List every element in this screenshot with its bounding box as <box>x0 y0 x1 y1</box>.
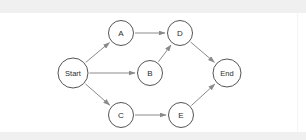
graph-node-start[interactable]: Start <box>58 58 88 88</box>
graph-node-b[interactable]: B <box>138 61 163 86</box>
graph-node-d[interactable]: D <box>168 21 193 46</box>
screenshot-root: StartABCDEEnd <box>0 0 306 140</box>
flowchart-graph: StartABCDEEnd <box>0 0 306 140</box>
node-label-b: B <box>147 69 152 78</box>
node-label-e: E <box>178 111 183 120</box>
graph-edge-start-c <box>85 84 109 105</box>
node-label-c: C <box>118 111 124 120</box>
node-label-start: Start <box>65 69 82 78</box>
graph-node-end[interactable]: End <box>213 59 241 87</box>
graph-node-a[interactable]: A <box>109 21 134 46</box>
graph-node-c[interactable]: C <box>109 103 134 128</box>
node-label-end: End <box>220 69 233 78</box>
graph-edge-b-d <box>158 45 171 62</box>
nodes-layer: StartABCDEEnd <box>58 21 241 128</box>
node-label-a: A <box>118 29 124 38</box>
graph-edge-d-end <box>191 42 215 62</box>
graph-node-e[interactable]: E <box>169 103 194 128</box>
node-label-d: D <box>177 29 183 38</box>
graph-edge-start-a <box>86 43 110 63</box>
graph-edge-e-end <box>191 84 214 105</box>
